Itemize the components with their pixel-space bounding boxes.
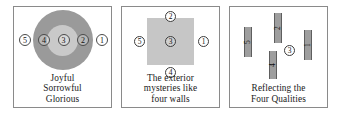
square-number-left: 5	[134, 36, 145, 47]
panel-1-caption: Joyful Sorrowful Glorious	[14, 73, 111, 104]
caption-line-glorious: Glorious	[14, 94, 111, 104]
panel-2-caption: The exterior mysteries like four walls	[122, 73, 219, 104]
circle-number-1: 1	[96, 34, 108, 46]
mirror-label-2: 2	[274, 26, 282, 30]
circle-number-5: 5	[19, 34, 31, 46]
mirror-bar-4: 4	[269, 51, 277, 79]
caption-line-reflecting-the: Reflecting the	[230, 83, 327, 93]
mirror-bar-5: 5	[244, 27, 252, 57]
caption-line-four-walls: four walls	[122, 94, 219, 104]
circle-number-2: 2	[77, 34, 89, 46]
mirror-bar-2: 2	[274, 13, 282, 43]
caption-line-mysteries-like: mysteries like	[122, 83, 219, 93]
caption-line-sorrowful: Sorrowful	[14, 83, 111, 93]
panel-concentric-circles: 5 4 3 2 1 Joyful Sorrowful Glorious	[13, 6, 112, 108]
caption-line-joyful: Joyful	[14, 73, 111, 83]
mirrors-center-number: 3	[284, 45, 295, 56]
mirror-label-5: 5	[244, 40, 252, 44]
three-panel-figure: 5 4 3 2 1 Joyful Sorrowful Glorious 2 5 …	[0, 0, 341, 115]
panel-four-mirrors: 5 2 4 1 3 Reflecting the Four Qualities	[229, 6, 328, 108]
circle-number-4: 4	[38, 34, 50, 46]
mirror-label-1: 1	[304, 43, 312, 47]
square-number-center: 3	[165, 36, 176, 47]
caption-line-four-qualities: Four Qualities	[230, 94, 327, 104]
square-number-right: 1	[198, 36, 209, 47]
panel-2-artwork: 2 5 3 1 4	[122, 7, 219, 73]
panel-square-four-walls: 2 5 3 1 4 The exterior mysteries like fo…	[121, 6, 220, 108]
square-number-top: 2	[165, 11, 176, 22]
panel-3-caption: Reflecting the Four Qualities	[230, 83, 327, 104]
caption-line-the-exterior: The exterior	[122, 73, 219, 83]
panel-1-artwork: 5 4 3 2 1	[14, 7, 111, 73]
circle-number-3: 3	[58, 34, 70, 46]
mirror-label-4: 4	[269, 63, 277, 67]
panel-3-artwork: 5 2 4 1 3	[230, 7, 327, 73]
mirror-bar-1: 1	[304, 30, 312, 60]
